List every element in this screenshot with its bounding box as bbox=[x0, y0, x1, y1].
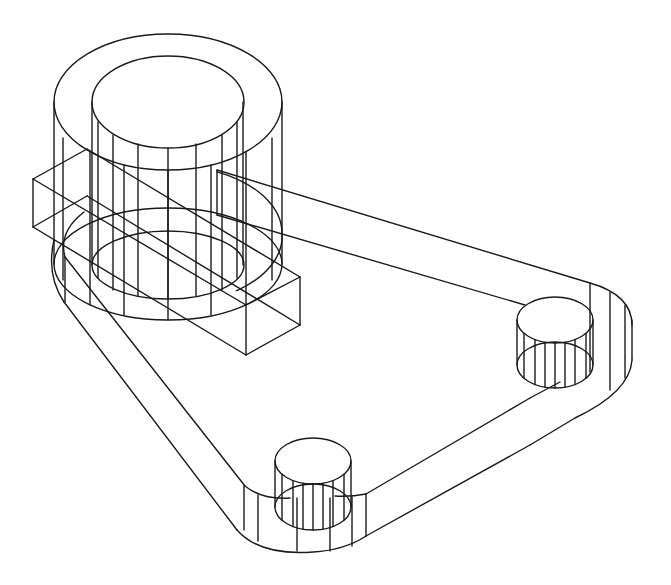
plate-fillet-curve bbox=[64, 212, 84, 257]
plate-edge bbox=[217, 215, 525, 305]
rectangular-bar bbox=[33, 149, 300, 355]
inner-top-ellipse bbox=[92, 56, 244, 148]
bar-edge bbox=[33, 196, 87, 227]
bottom-small-boss bbox=[275, 438, 351, 530]
right-small-boss bbox=[517, 297, 593, 388]
main-cylindrical-boss bbox=[54, 34, 282, 320]
cad-wireframe-drawing bbox=[0, 0, 671, 585]
plate-edge bbox=[217, 170, 590, 283]
boss-top-ellipse bbox=[517, 297, 593, 343]
plate-fillet-curve bbox=[237, 530, 366, 553]
isometric-part-wireframe bbox=[0, 0, 671, 585]
plate-edge bbox=[366, 398, 530, 494]
bar-edge bbox=[33, 149, 87, 179]
bar-edge bbox=[246, 325, 300, 355]
bar-edge bbox=[87, 196, 300, 325]
plate-edge bbox=[366, 445, 530, 536]
plate-edge bbox=[64, 302, 237, 530]
boss-top-ellipse bbox=[275, 438, 351, 484]
